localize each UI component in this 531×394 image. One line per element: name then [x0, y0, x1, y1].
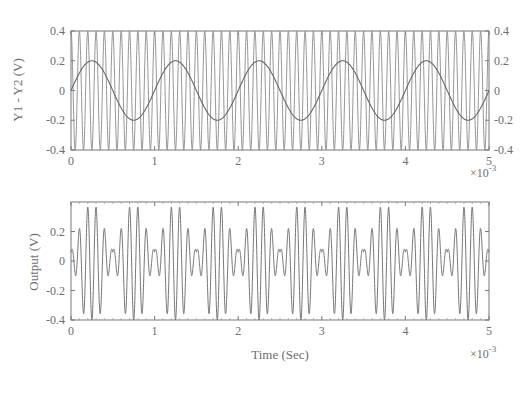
svg-text:2: 2 — [235, 324, 241, 338]
svg-text:0.4: 0.4 — [494, 24, 509, 38]
svg-text:4: 4 — [402, 324, 408, 338]
top-y-tick-labels-left: 0.40.20-0.2-0.4 — [46, 24, 65, 157]
top-x-tick-labels: 012345 — [68, 154, 492, 168]
top-y-axis-label: Y1 - Y2 (V) — [10, 58, 25, 121]
svg-text:5: 5 — [486, 324, 492, 338]
svg-text:3: 3 — [319, 324, 325, 338]
svg-text:2: 2 — [235, 154, 241, 168]
bottom-x-multiplier: ×10-3 — [470, 344, 497, 361]
svg-text:4: 4 — [402, 154, 408, 168]
svg-text:-0.2: -0.2 — [494, 113, 513, 127]
bottom-x-axis-label: Time (Sec) — [251, 347, 309, 362]
svg-text:-0.2: -0.2 — [46, 113, 65, 127]
chart-figure: 0.40.20-0.2-0.4 0.40.20-0.2-0.4 012345 Y… — [0, 0, 531, 394]
svg-text:0: 0 — [59, 254, 65, 268]
bottom-plot: 0.20-0.2-0.4 012345 Output (V) Time (Sec… — [26, 202, 497, 362]
top-x-multiplier: ×10-3 — [470, 163, 497, 180]
svg-text:0: 0 — [59, 84, 65, 98]
svg-text:3: 3 — [319, 154, 325, 168]
top-plot: 0.40.20-0.2-0.4 0.40.20-0.2-0.4 012345 Y… — [10, 24, 513, 180]
svg-text:-0.4: -0.4 — [494, 143, 513, 157]
svg-text:0.2: 0.2 — [494, 54, 509, 68]
svg-text:0.2: 0.2 — [50, 225, 65, 239]
svg-text:0: 0 — [68, 154, 74, 168]
svg-text:-0.4: -0.4 — [46, 313, 65, 327]
svg-text:-0.2: -0.2 — [46, 284, 65, 298]
bottom-y-tick-labels: 0.20-0.2-0.4 — [46, 225, 65, 328]
svg-text:1: 1 — [152, 324, 158, 338]
svg-text:0.4: 0.4 — [50, 24, 65, 38]
svg-text:0: 0 — [494, 84, 500, 98]
svg-text:-0.4: -0.4 — [46, 143, 65, 157]
bottom-x-tick-labels: 012345 — [68, 324, 492, 338]
svg-text:0.2: 0.2 — [50, 54, 65, 68]
svg-text:0: 0 — [68, 324, 74, 338]
svg-text:1: 1 — [152, 154, 158, 168]
top-y-tick-labels-right: 0.40.20-0.2-0.4 — [494, 24, 513, 157]
bottom-y-axis-label: Output (V) — [26, 233, 41, 290]
bottom-plot-frame — [71, 202, 489, 320]
